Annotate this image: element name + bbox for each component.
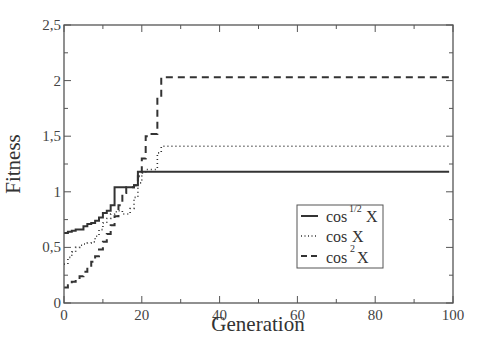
y-tick-label: 0,5: [42, 239, 61, 255]
legend-label-sup: 1/2: [349, 203, 362, 214]
legend-label-base: cos: [326, 249, 347, 266]
legend-label-sup: 2: [350, 243, 355, 254]
y-tick-label: 1,5: [42, 128, 61, 144]
series-dotted-line: [64, 146, 449, 264]
y-tick-label: 0: [54, 295, 62, 311]
x-tick-label: 100: [442, 307, 465, 323]
series-dashed-line: [64, 77, 449, 287]
legend-label-var: X: [357, 249, 369, 266]
x-tick-label: 20: [134, 307, 149, 323]
x-axis-title: Generation: [211, 312, 305, 336]
x-tick-label: 0: [60, 307, 68, 323]
y-tick-label: 2,5: [42, 17, 61, 33]
x-tick-label: 80: [368, 307, 383, 323]
y-tick-label: 1: [54, 184, 62, 200]
fitness-chart: 020406080100 00,511,522,5 Generation Fit…: [0, 0, 488, 358]
plot-frame: [64, 25, 453, 303]
legend: cos 1/2 X cos X cos 2 X: [297, 203, 383, 268]
axis-ticks: [64, 25, 453, 303]
legend-label-base: cos: [326, 208, 347, 225]
legend-label-base: cos: [326, 228, 347, 245]
y-axis-title: Fitness: [1, 134, 25, 194]
y-axis-tick-labels: 00,511,522,5: [42, 17, 61, 311]
data-series: [64, 77, 449, 287]
legend-label-var: X: [366, 208, 378, 225]
series-solid-line: [64, 172, 449, 233]
y-tick-label: 2: [54, 73, 62, 89]
